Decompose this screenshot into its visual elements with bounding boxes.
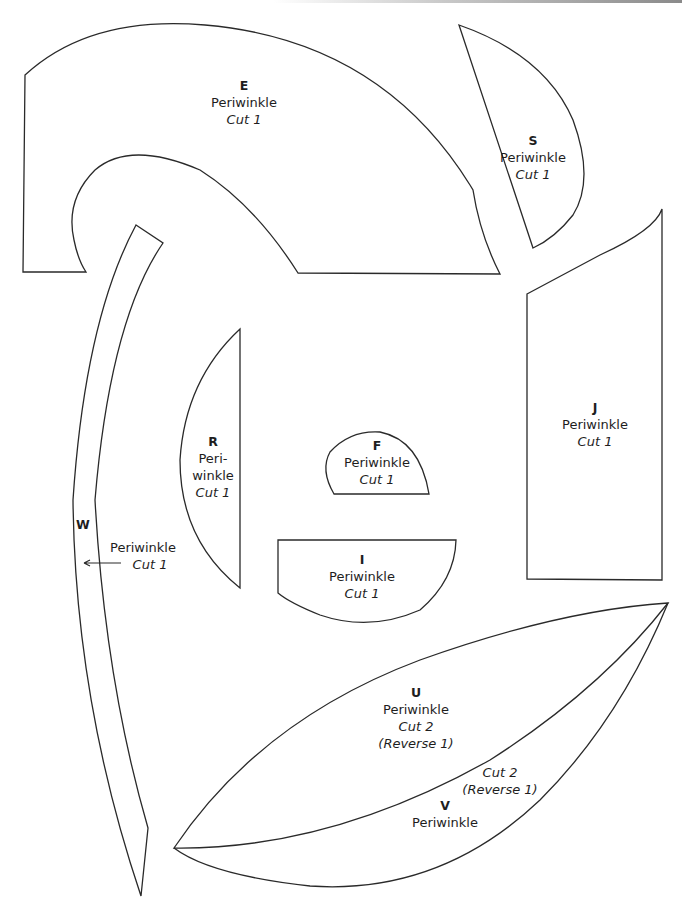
label-piece-w-letter: W [76, 516, 90, 533]
piece-letter: W [76, 516, 90, 533]
label-piece-s: S Periwinkle Cut 1 [500, 132, 566, 183]
label-piece-j: J Periwinkle Cut 1 [562, 399, 628, 450]
fabric-color: Periwinkle [329, 568, 395, 585]
label-piece-e: E Periwinkle Cut 1 [211, 77, 277, 128]
label-piece-f: F Periwinkle Cut 1 [344, 437, 410, 488]
cut-instruction: Cut 1 [192, 484, 234, 501]
piece-letter: S [500, 132, 566, 149]
piece-letter: E [211, 77, 277, 94]
cut-instruction: Cut 1 [562, 433, 628, 450]
label-piece-w: Periwinkle Cut 1 [110, 539, 176, 573]
fabric-color-line2: winkle [192, 467, 234, 484]
piece-e-outline [23, 24, 500, 274]
fabric-color: Periwinkle [378, 701, 453, 718]
cut-instruction: Cut 2 [462, 764, 537, 781]
label-piece-u: U Periwinkle Cut 2 (Reverse 1) [378, 684, 453, 752]
pattern-sheet: E Periwinkle Cut 1 S Periwinkle Cut 1 J … [0, 0, 682, 915]
cut-instruction: Cut 1 [329, 585, 395, 602]
cut-instruction: Cut 1 [344, 471, 410, 488]
label-piece-i: I Periwinkle Cut 1 [329, 551, 395, 602]
fabric-color-line1: Peri- [192, 450, 234, 467]
fabric-color: Periwinkle [110, 539, 176, 556]
cut-instruction: Cut 1 [211, 111, 277, 128]
piece-j-outline [527, 209, 662, 580]
label-piece-v-cut: Cut 2 (Reverse 1) [462, 764, 537, 798]
fabric-color: Periwinkle [344, 454, 410, 471]
piece-letter: R [192, 433, 234, 450]
cut-instruction: Cut 1 [500, 166, 566, 183]
label-piece-v: V Periwinkle [412, 797, 478, 831]
piece-letter: U [378, 684, 453, 701]
label-piece-r: R Peri- winkle Cut 1 [192, 433, 234, 501]
pattern-pieces-drawing [0, 0, 682, 915]
reverse-instruction: (Reverse 1) [378, 735, 453, 752]
fabric-color: Periwinkle [211, 94, 277, 111]
fabric-color: Periwinkle [412, 814, 478, 831]
cut-instruction: Cut 2 [378, 718, 453, 735]
fabric-color: Periwinkle [500, 149, 566, 166]
cut-instruction: Cut 1 [110, 556, 176, 573]
piece-letter: F [344, 437, 410, 454]
reverse-instruction: (Reverse 1) [462, 781, 537, 798]
piece-letter: V [412, 797, 478, 814]
piece-letter: J [562, 399, 628, 416]
fabric-color: Periwinkle [562, 416, 628, 433]
piece-letter: I [329, 551, 395, 568]
